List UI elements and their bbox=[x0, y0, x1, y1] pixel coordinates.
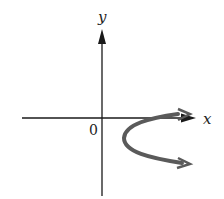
y-axis-arrow-icon bbox=[98, 29, 106, 44]
coordinate-diagram: y x 0 bbox=[0, 0, 224, 199]
y-axis bbox=[98, 29, 106, 196]
x-axis-label: x bbox=[203, 110, 212, 128]
y-axis-label: y bbox=[97, 8, 107, 26]
origin-label: 0 bbox=[89, 122, 98, 138]
